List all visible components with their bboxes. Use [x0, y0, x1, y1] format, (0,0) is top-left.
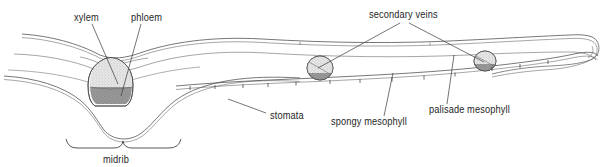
leader-stomata — [228, 99, 266, 113]
label-spongy-mesophyll: spongy mesophyll — [331, 115, 407, 127]
leader-lines — [92, 23, 484, 116]
label-palisade-mesophyll: palisade mesophyll — [429, 103, 510, 115]
midrib-brace — [66, 139, 181, 148]
secondary-vein-xylem-left — [306, 55, 334, 73]
midrib-vascular-bundle — [80, 54, 148, 109]
label-midrib: midrib — [103, 153, 129, 165]
leaf-cross-section-figure: xylem phloem secondary veins stomata spo… — [0, 0, 603, 167]
leader-secondary-vein-right — [409, 23, 484, 62]
leader-palisade-mesophyll — [447, 55, 454, 104]
label-stomata: stomata — [270, 109, 304, 121]
label-xylem: xylem — [74, 11, 99, 23]
leaf-diagram-canvas: xylem phloem secondary veins stomata spo… — [0, 0, 603, 167]
leader-spongy-mesophyll — [384, 73, 393, 116]
label-secondary-veins: secondary veins — [369, 8, 438, 20]
upper-epidermis — [22, 34, 597, 61]
label-phloem: phloem — [131, 11, 162, 23]
